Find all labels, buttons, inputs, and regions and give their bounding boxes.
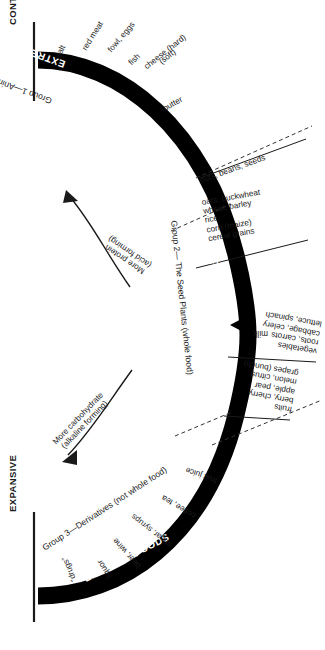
milk-pointer-triangle (230, 316, 247, 334)
expansive-axis-label: EXPANSIVE (8, 408, 19, 512)
more-protein-arrowhead (63, 190, 78, 203)
contractive-axis-label: CONTRACTIVE (8, 0, 19, 25)
diagram-canvas: CONTRACTIVE EXPANSIVE EXTREME FOODS Grou… (0, 0, 325, 650)
band-title-centered-foods: CENTERED FOODS (208, 250, 219, 352)
food-group-fruits: fruits berry, cherry apple, pear melon, … (237, 359, 299, 414)
